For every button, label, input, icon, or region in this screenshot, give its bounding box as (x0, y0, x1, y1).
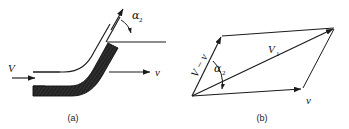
vane-inner-wall (106, 17, 120, 42)
label-exit-angle-subscript: 2 (139, 16, 143, 24)
label-angle-group: α 2 (214, 62, 226, 77)
label-absolute-velocity-group: V 1 (268, 43, 280, 58)
panel-b: V − v V 1 v α 2 (b) (188, 28, 334, 123)
label-angle-subscript: 2 (222, 69, 226, 77)
figure-svg: V v α 2 (a) V − v V 1 v (0, 0, 349, 129)
parallelogram-right-side (303, 29, 334, 88)
panel-a: V v α 2 (a) (8, 9, 166, 123)
label-absolute-velocity: V (268, 43, 276, 55)
label-blade-velocity: v (306, 94, 311, 106)
caption-a: (a) (68, 113, 79, 123)
parallelogram-top-side (222, 28, 334, 36)
vane-body (33, 43, 118, 96)
label-angle: α (214, 62, 222, 75)
exit-velocity-arrow (111, 9, 123, 30)
figure-container: V v α 2 (a) V − v V 1 v (0, 0, 349, 129)
label-vane-velocity: v (155, 66, 160, 78)
label-exit-angle-group: α 2 (132, 9, 143, 24)
blade-velocity-vector (192, 89, 301, 96)
caption-b: (b) (257, 113, 268, 123)
label-inlet-velocity: V (8, 62, 16, 74)
label-absolute-velocity-subscript: 1 (276, 50, 280, 58)
alpha2-arc-a (121, 20, 131, 33)
